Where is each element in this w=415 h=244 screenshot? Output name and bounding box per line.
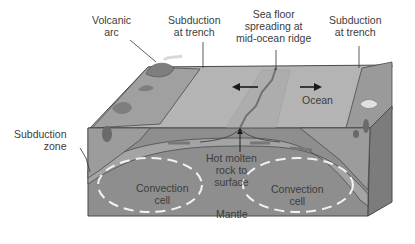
label-volcanic-arc: Volcanic arc xyxy=(92,14,131,38)
label-subduction-zone: Subduction zone xyxy=(14,128,67,152)
label-sea-floor-spreading: Sea floor spreading at mid-ocean ridge xyxy=(236,8,311,44)
label-convection-cell-left: Convection cell xyxy=(136,182,189,206)
label-subduction-right: Subduction at trench xyxy=(329,14,382,38)
label-mantle: Mantle xyxy=(216,208,248,220)
label-convection-cell-right: Convection cell xyxy=(271,183,324,207)
label-subduction-left: Subduction at trench xyxy=(168,14,221,38)
label-hot-molten-rock: Hot molten rock to surface xyxy=(206,152,257,188)
label-ocean: Ocean xyxy=(302,94,333,106)
